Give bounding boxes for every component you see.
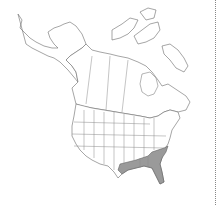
usa: [72, 104, 180, 184]
dotted-divider: [215, 0, 216, 205]
range-map: [0, 0, 219, 205]
arctic-islands: [134, 22, 160, 44]
baffin-island: [162, 44, 188, 72]
arctic-islands: [140, 8, 156, 20]
